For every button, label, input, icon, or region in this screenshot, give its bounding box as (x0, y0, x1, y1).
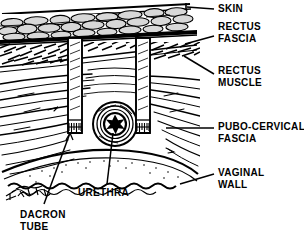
urethra-structure (93, 102, 137, 146)
dacron-tube-right (136, 38, 150, 133)
leader-skin (187, 7, 214, 9)
label-urethra: URETHRA (78, 187, 129, 199)
label-skin: SKIN (218, 3, 243, 15)
label-rectus-fascia: RECTUS FASCIA (218, 21, 261, 44)
label-dacron-tube: DACRON TUBE (20, 209, 66, 232)
label-rectus-muscle: RECTUS MUSCLE (218, 65, 262, 88)
label-pubo-cervical-fascia: PUBO-CERVICAL FASCIA (218, 121, 304, 144)
leader-vaginal-wall (180, 174, 214, 184)
label-vaginal-wall: VAGINAL WALL (218, 167, 264, 190)
anatomical-figure: SKIN RECTUS FASCIA RECTUS MUSCLE PUBO-CE… (0, 0, 304, 238)
leader-rectus-muscle (184, 56, 214, 74)
dacron-tube-left (68, 38, 82, 133)
